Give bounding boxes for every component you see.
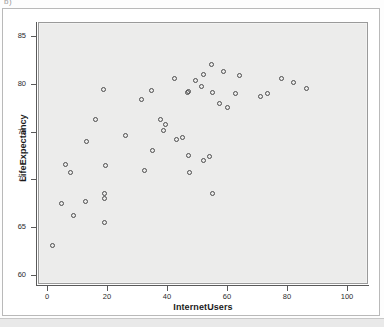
y-axis-tick [31,275,36,276]
x-axis-tick [227,286,228,291]
x-axis-tick-label: 0 [34,293,60,301]
scatter-chart: 606570758085020406080100 InternetUsers L… [0,8,380,314]
x-axis-tick [287,286,288,291]
y-axis-line [36,22,37,286]
plot-panel [38,22,368,284]
y-axis-tick-label: 85 [0,32,26,40]
x-axis-tick [347,286,348,291]
x-axis-tick-label: 100 [334,293,360,301]
page-frame-bottom-edge [0,318,384,327]
y-axis-tick [31,132,36,133]
x-axis-tick-label: 60 [214,293,240,301]
x-axis-tick-label: 40 [154,293,180,301]
y-axis-tick [31,84,36,85]
x-axis-tick [47,286,48,291]
y-axis-tick [31,179,36,180]
y-axis-title: LifeExpectancy [18,73,28,223]
x-axis-tick [107,286,108,291]
y-axis-tick [31,36,36,37]
y-axis-tick-label: 60 [0,271,26,279]
y-axis-tick [31,227,36,228]
x-axis-tick-label: 20 [94,293,120,301]
figure-label: b) [4,0,12,6]
x-axis-line [36,285,369,286]
x-axis-tick-label: 80 [274,293,300,301]
y-axis-tick-label: 65 [0,223,26,231]
x-axis-tick [167,286,168,291]
x-axis-title: InternetUsers [38,302,368,312]
